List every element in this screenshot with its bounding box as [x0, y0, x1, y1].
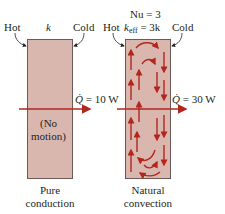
right-hot-pointer-icon	[113, 33, 124, 46]
left-cold-pointer-icon	[74, 33, 84, 46]
right-cold-pointer-icon	[172, 33, 182, 46]
arrows-layer	[0, 0, 225, 214]
left-hot-pointer-icon	[15, 33, 26, 46]
